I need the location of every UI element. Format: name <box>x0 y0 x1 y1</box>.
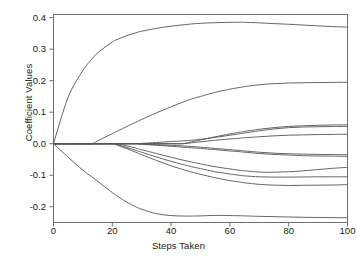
coefficient-path-line <box>54 144 348 173</box>
coefficient-path-line <box>54 144 348 218</box>
x-axis-title: Steps Taken <box>0 240 357 251</box>
x-tick-label: 80 <box>269 226 309 236</box>
plot-frame <box>54 15 348 223</box>
x-tick-label: 100 <box>328 226 357 236</box>
plot-canvas <box>0 0 357 260</box>
x-tick-label: 60 <box>210 226 250 236</box>
y-tick-label: -0.2 <box>16 202 46 212</box>
x-tick-label: 20 <box>92 226 132 236</box>
x-tick-label: 40 <box>151 226 191 236</box>
coefficient-path-line <box>54 144 348 155</box>
axis-ticks <box>50 18 348 227</box>
x-tick-labels: 020406080100 <box>0 226 357 240</box>
y-tick-label: 0.4 <box>16 13 46 23</box>
y-axis-title: Coefficient Values <box>23 23 34 183</box>
coefficient-path-chart: 0.40.30.20.10.0-0.1-0.2 020406080100 Coe… <box>0 0 357 260</box>
coefficient-paths <box>54 22 348 218</box>
coefficient-path-line <box>54 144 348 186</box>
plot-border <box>54 15 348 223</box>
x-tick-label: 0 <box>34 226 74 236</box>
